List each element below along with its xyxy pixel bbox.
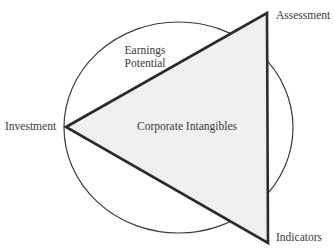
region-label-earnings-potential: Earnings Potential	[111, 44, 179, 70]
earnings-potential-line2: Potential	[111, 57, 179, 70]
vertex-label-indicators: Indicators	[276, 231, 322, 244]
earnings-potential-line1: Earnings	[111, 44, 179, 57]
vertex-label-investment: Investment	[5, 120, 56, 133]
vertex-label-assessment: Assessment	[276, 9, 330, 22]
region-label-corporate-intangibles: Corporate Intangibles	[137, 120, 237, 133]
